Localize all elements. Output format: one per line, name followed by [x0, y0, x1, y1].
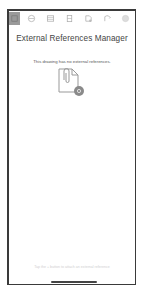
- top-toolbar: [9, 11, 135, 25]
- blocks-icon: [65, 14, 74, 23]
- properties-icon: [46, 14, 55, 23]
- toolbar-button-properties[interactable]: [44, 11, 58, 25]
- phone-frame: External References Manager This drawing…: [7, 9, 136, 285]
- paperclip-document-icon: [55, 66, 91, 98]
- toolbar-button-xref[interactable]: [100, 11, 114, 25]
- attach-icon: [84, 14, 93, 23]
- settings-icon: [121, 14, 130, 23]
- layers-icon: [27, 14, 36, 23]
- toolbar-button-settings[interactable]: [119, 11, 133, 25]
- toolbar-button-attach[interactable]: [81, 11, 95, 25]
- empty-state-message: This drawing has no external references.: [9, 59, 135, 64]
- toolbar-button-grid[interactable]: [9, 12, 20, 25]
- panel-title: External References Manager: [9, 34, 135, 43]
- hint-text: Tap the + button to attach an external r…: [9, 265, 135, 269]
- home-indicator[interactable]: [51, 281, 97, 283]
- xref-icon: [103, 14, 112, 23]
- grid-icon: [10, 14, 19, 23]
- toolbar-button-blocks[interactable]: [62, 11, 76, 25]
- toolbar-button-layers[interactable]: [25, 11, 39, 25]
